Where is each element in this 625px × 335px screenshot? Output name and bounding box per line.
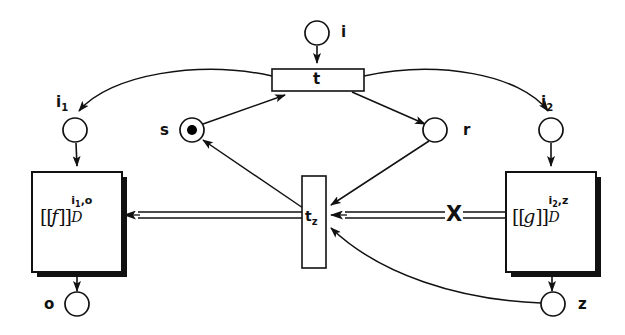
arc-t-to-r bbox=[352, 92, 425, 124]
f-superscript: i1,o bbox=[71, 195, 92, 209]
place-label-z: z bbox=[578, 297, 587, 312]
transition-label-t: t bbox=[313, 72, 320, 87]
token-s-dot bbox=[187, 125, 197, 135]
g-subscript: D bbox=[548, 210, 559, 224]
arc-t-to-i1 bbox=[79, 69, 272, 111]
place-z[interactable] bbox=[541, 292, 565, 316]
place-i[interactable] bbox=[305, 21, 329, 45]
place-r[interactable] bbox=[423, 118, 447, 142]
arc-r-to-tz bbox=[331, 141, 429, 205]
place-label-o: o bbox=[44, 297, 54, 312]
place-label-i: i bbox=[341, 25, 346, 40]
g-close-bracket: ] ] bbox=[535, 205, 546, 227]
arc-s-to-t bbox=[203, 95, 285, 124]
arc-i1-to-fbox bbox=[76, 143, 77, 166]
g-box-label: [ [g] ] i2,z D bbox=[512, 204, 578, 226]
f-close-bracket: ] ] bbox=[58, 205, 69, 227]
place-o[interactable] bbox=[65, 292, 89, 316]
arc-tz-to-fbox-double bbox=[124, 212, 302, 218]
f-open-bracket: [ [ bbox=[40, 205, 51, 227]
g-superscript: i2,z bbox=[548, 195, 568, 209]
place-i1[interactable] bbox=[63, 118, 87, 142]
g-function-symbol: g bbox=[523, 205, 535, 227]
x-mark-icon: X bbox=[445, 204, 463, 225]
place-label-i1: i1 bbox=[56, 95, 68, 113]
place-label-s: s bbox=[160, 123, 169, 138]
f-box-label: [ [f] ] i1,o D bbox=[40, 204, 101, 226]
f-subscript: D bbox=[71, 210, 82, 224]
place-label-r: r bbox=[463, 123, 470, 138]
transition-label-tz: tz bbox=[305, 209, 318, 227]
arc-tz-to-s bbox=[203, 140, 303, 208]
petri-net-figure: i i1 i2 s r o z t tz [ [f] ] i1,o D [ [g… bbox=[0, 0, 625, 335]
place-label-i2: i2 bbox=[541, 95, 553, 113]
g-open-bracket: [ [ bbox=[512, 205, 523, 227]
arc-t-to-i2 bbox=[364, 69, 548, 111]
place-i2[interactable] bbox=[539, 118, 563, 142]
petri-net-canvas bbox=[0, 0, 625, 335]
arc-gbox-to-tz-double bbox=[331, 212, 506, 218]
